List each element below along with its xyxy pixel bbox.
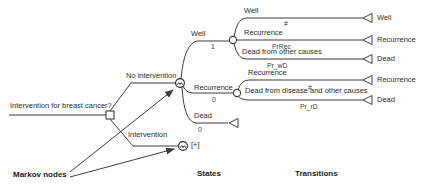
chance-node-circle-icon[interactable]	[233, 89, 240, 96]
state-label-well: Well	[191, 29, 205, 38]
branch-line-state-well	[181, 41, 230, 79]
transition-label: Well	[244, 6, 258, 15]
state-label-recurrence: Recurrence	[194, 83, 233, 92]
transition-probability: #	[284, 19, 288, 28]
terminal-node-triangle-icon[interactable]	[363, 36, 372, 45]
transition-label: Recurrence	[248, 68, 287, 77]
root-question-label: Intervention for breast cancer?	[10, 101, 112, 110]
transition-probability: Pr_rD	[300, 102, 318, 111]
state-prob-dead: 0	[198, 125, 202, 134]
state-prob-well: 1	[211, 42, 215, 51]
branch-line-rec-dead	[238, 96, 363, 100]
terminal-label: Recurrence	[377, 75, 416, 84]
transition-label: Dead from disease and other causes	[245, 86, 368, 95]
markov-node-circle-m-icon[interactable]	[176, 79, 185, 88]
terminal-node-triangle-icon[interactable]	[363, 76, 372, 85]
markov-node-circle-m-icon[interactable]	[179, 142, 188, 151]
collapsed-subtree-indicator[interactable]: [+]	[191, 140, 200, 149]
terminal-node-triangle-icon[interactable]	[363, 96, 372, 105]
state-label-dead: Dead	[194, 111, 212, 120]
decision-node-square-icon[interactable]	[106, 111, 114, 119]
terminal-node-triangle-icon[interactable]	[363, 14, 372, 23]
terminal-label: Dead	[377, 54, 395, 63]
transition-label: Recurrence	[244, 28, 283, 37]
state-prob-recurrence: 0	[212, 95, 216, 104]
chance-node-circle-icon[interactable]	[229, 36, 236, 43]
branch-line-no-intervention	[110, 83, 176, 111]
arrow-icon	[70, 149, 174, 177]
branch-label-intervention: Intervention	[128, 130, 167, 139]
terminal-node-triangle-icon[interactable]	[363, 55, 372, 64]
states-column-heading: States	[197, 169, 221, 178]
markov-decision-tree-diagram: Intervention for breast cancer? No inter…	[0, 0, 431, 189]
terminal-label: Well	[377, 13, 391, 22]
branch-label-no-intervention: No intervention	[126, 71, 176, 80]
terminal-node-triangle-icon[interactable]	[229, 119, 238, 128]
transition-label: Dead from other causes	[242, 47, 322, 56]
terminal-label: Dead	[377, 95, 395, 104]
terminal-label: Recurrence	[377, 35, 416, 44]
transitions-column-heading: Transitions	[295, 169, 338, 178]
markov-nodes-annotation: Markov nodes	[13, 170, 67, 179]
